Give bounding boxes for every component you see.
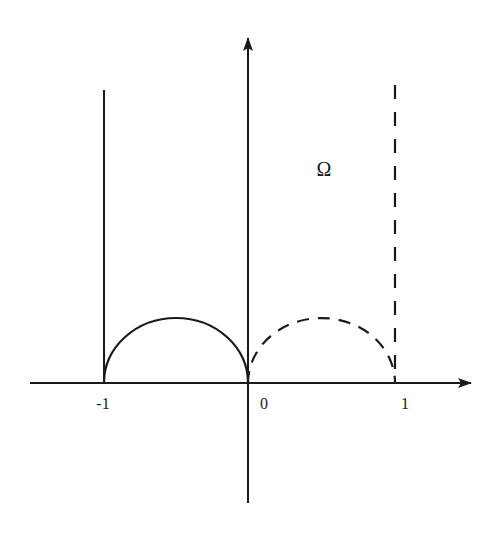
left-semicircle (104, 318, 248, 383)
right-semicircle-dashed (248, 318, 395, 383)
tick-label-1: 1 (401, 395, 409, 412)
tick-label-0: 0 (260, 395, 268, 412)
tick-label-neg1: -1 (96, 395, 109, 412)
diagram-canvas: -1 0 1 Ω (0, 0, 496, 540)
region-label-omega: Ω (317, 158, 332, 180)
